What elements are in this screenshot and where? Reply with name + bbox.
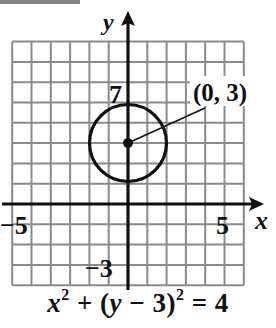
x-axis-label: x (254, 206, 268, 235)
coordinate-plane: (0, 3) y x 7 −5 5 −3 (0, 0, 276, 328)
eq-equals: = 4 (184, 288, 228, 318)
center-label: (0, 3) (193, 79, 247, 107)
eq-plus: + ( (70, 288, 110, 318)
eq-var-x: x (47, 288, 61, 318)
tick-label-7: 7 (109, 80, 122, 109)
tick-label-5: 5 (216, 211, 229, 240)
tick-label-neg3: −3 (85, 254, 113, 283)
tick-label-neg5: −5 (0, 211, 28, 240)
eq-exponent: 2 (176, 286, 185, 303)
y-axis-label: y (100, 9, 114, 35)
eq-exponent: 2 (61, 286, 70, 303)
eq-var-y: y (110, 288, 122, 318)
circle-equation: x2 + (y − 3)2 = 4 (0, 288, 276, 319)
eq-minus: − 3) (122, 288, 176, 318)
